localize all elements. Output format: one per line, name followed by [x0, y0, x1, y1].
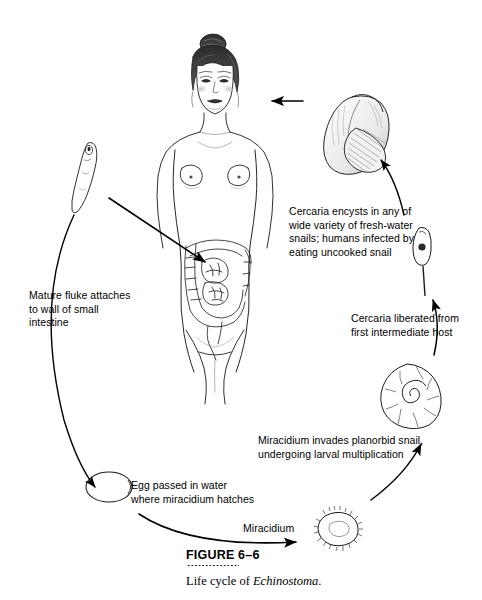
caption-dotted-rule: [187, 564, 239, 567]
fluke-egg-illustration: [86, 472, 132, 502]
label-miracidium-invades-snail: Miracidium invades planorbid snail, unde…: [258, 434, 458, 461]
arrow-fluke-to-egg: [51, 215, 95, 487]
caption-prefix: Life cycle of: [186, 574, 253, 588]
caption-suffix: .: [318, 574, 321, 588]
figure-number: FIGURE 6–6: [186, 548, 476, 562]
intestines-illustration: [185, 240, 251, 360]
planorbid-snail-illustration: [381, 364, 441, 429]
label-egg-passed-in-water: Egg passed in water where miracidium hat…: [131, 479, 266, 506]
right-arm-icon: [230, 132, 273, 248]
label-cercaria-encysts: Cercaria encysts in any of wide variety …: [289, 205, 459, 259]
figure-caption-text: Life cycle of Echinostoma.: [186, 574, 476, 589]
miracidium-illustration: [314, 506, 363, 551]
figure-caption-block: FIGURE 6–6 Life cycle of Echinostoma.: [186, 548, 476, 589]
label-miracidium: Miracidium: [243, 522, 313, 536]
adult-fluke-illustration: [72, 143, 97, 213]
breast-right-icon: [228, 165, 250, 186]
human-female-figure: [157, 34, 273, 404]
fresh-water-snail-shell-illustration: [324, 95, 390, 175]
breast-left-icon: [180, 165, 202, 186]
neck-icon: [200, 113, 230, 132]
label-mature-fluke-attaches: Mature fluke attaches to wall of small i…: [29, 289, 164, 330]
figure-life-cycle-echinostoma: Cercaria encysts in any of wide variety …: [0, 0, 482, 600]
cercaria-tail-icon: [423, 266, 425, 296]
label-cercaria-liberated: Cercaria liberated from first intermedia…: [351, 312, 481, 339]
left-arm-icon: [157, 132, 200, 248]
caption-species-name: Echinostoma: [253, 574, 318, 588]
